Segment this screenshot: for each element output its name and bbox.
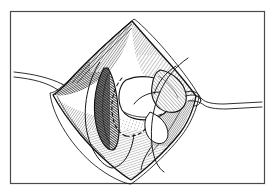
illustration-figure: Diamond-shaped surgical incision with re… bbox=[0, 0, 276, 196]
surgical-illustration-canvas bbox=[0, 0, 276, 196]
